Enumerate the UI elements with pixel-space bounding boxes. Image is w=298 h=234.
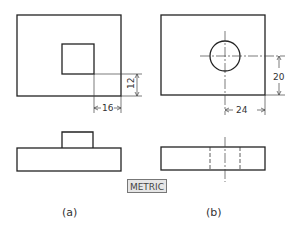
caption-b: (b) (206, 206, 222, 219)
dim-a-vertical: 12 (126, 78, 136, 89)
view-b-dimensions (225, 56, 285, 115)
view-a-top (17, 15, 121, 96)
dim-b-vertical: 20 (273, 72, 285, 82)
dim-b-horizontal: 24 (236, 105, 248, 115)
plate-outline (17, 15, 121, 96)
boss-outline (62, 132, 93, 148)
base-outline (161, 147, 265, 170)
plate-outline (161, 15, 265, 95)
view-b-top (161, 15, 265, 95)
view-b-front (161, 147, 265, 170)
base-outline (17, 148, 121, 171)
view-a-front (17, 132, 121, 171)
dim-a-horizontal: 16 (102, 103, 114, 113)
caption-a: (a) (62, 206, 77, 219)
units-label: METRIC (127, 179, 167, 193)
square-boss-outline (62, 44, 94, 74)
drawing-canvas: 12 16 20 24 (a) (b) (0, 0, 298, 234)
